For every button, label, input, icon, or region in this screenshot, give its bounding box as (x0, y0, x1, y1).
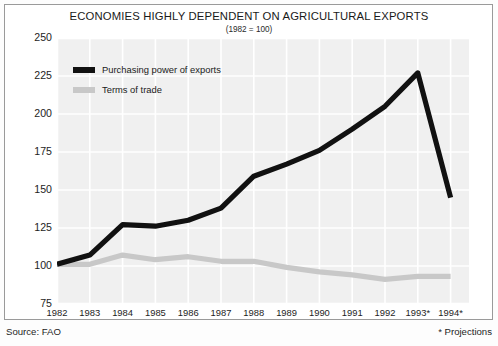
y-tick-125: 125 (12, 221, 52, 233)
y-tick-225: 225 (12, 69, 52, 81)
y-tick-200: 200 (12, 107, 52, 119)
figure: ECONOMIES HIGHLY DEPENDENT ON AGRICULTUR… (0, 0, 498, 346)
chart-subtitle: (1982 = 100) (0, 25, 498, 34)
y-tick-250: 250 (12, 31, 52, 43)
y-tick-150: 150 (12, 183, 52, 195)
gridlines-vertical (58, 38, 451, 304)
legend-label-purchasing-power: Purchasing power of exports (102, 64, 221, 75)
legend-swatch-terms-of-trade (73, 87, 95, 93)
x-tick-1994: 1994* (431, 307, 471, 318)
legend-item-terms-of-trade: Terms of trade (73, 84, 162, 95)
projections-note: * Projections (438, 326, 492, 337)
chart-svg (57, 38, 469, 304)
chart-title: ECONOMIES HIGHLY DEPENDENT ON AGRICULTUR… (0, 10, 498, 22)
legend-item-purchasing-power: Purchasing power of exports (73, 64, 221, 75)
y-tick-100: 100 (12, 259, 52, 271)
plot-area (57, 38, 469, 304)
legend-swatch-purchasing-power (73, 67, 95, 73)
source-label: Source: FAO (6, 326, 61, 337)
y-tick-175: 175 (12, 145, 52, 157)
legend-label-terms-of-trade: Terms of trade (102, 84, 162, 95)
